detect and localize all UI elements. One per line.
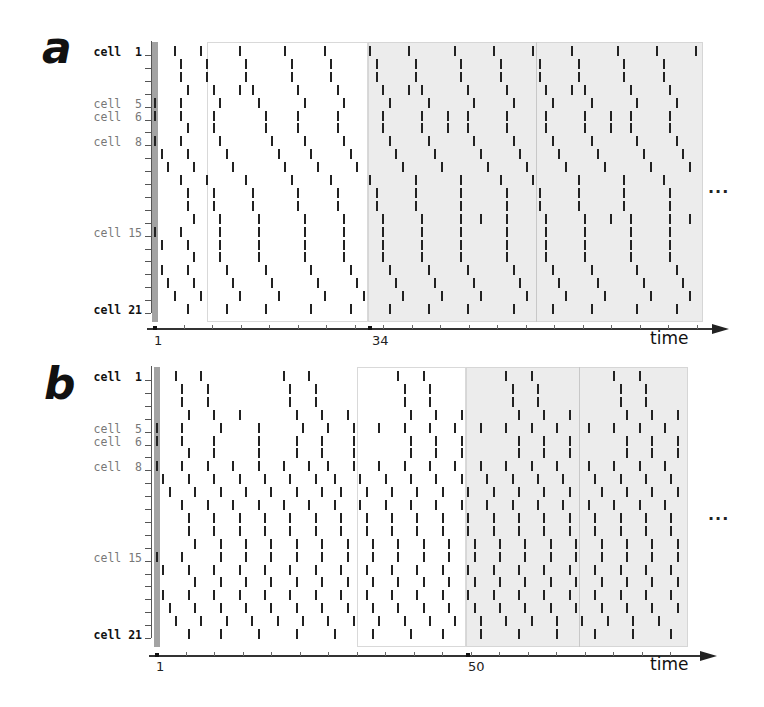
spike [296,629,298,639]
spike [188,410,190,420]
spike [531,461,533,471]
spike [518,565,520,575]
spike [474,552,476,562]
spike [353,616,355,626]
x-tick-label-mark-b: 50 [468,659,485,674]
initial-spike [156,552,158,562]
spike [289,526,291,536]
spike [480,616,482,626]
spike [213,410,215,420]
spike [181,436,183,446]
spike [385,500,387,510]
spike [194,603,196,613]
spike [550,552,552,562]
y-tick [145,612,151,613]
spike [289,384,291,394]
spike [537,397,539,407]
spike [207,384,209,394]
spike [378,616,380,626]
spike [620,397,622,407]
spike [296,410,298,420]
spike [220,629,222,639]
spike [359,474,361,484]
spike [423,539,425,549]
spike [518,513,520,523]
spike [575,552,577,562]
spike [270,603,272,613]
spike [543,590,545,600]
spike [677,448,679,458]
spike [639,423,641,433]
spike [626,577,628,587]
spike [340,487,342,497]
spike [245,603,247,613]
spike [626,410,628,420]
spike [162,565,164,575]
spike [670,590,672,600]
x-tick [556,652,557,656]
spike [416,513,418,523]
spike [340,565,342,575]
spike [308,371,310,381]
spike [283,461,285,471]
spike [239,410,241,420]
spike [518,526,520,536]
spike [601,539,603,549]
spike [404,423,406,433]
spike [270,539,272,549]
spike [289,565,291,575]
spike [321,487,323,497]
spike [550,603,552,613]
cell-label-15: cell 15 [52,552,142,564]
spike [620,526,622,536]
spike [632,616,634,626]
y-tick [145,470,151,471]
y-tick [145,548,151,549]
x-tick [528,652,529,656]
initial-stimulus-bar [154,367,160,647]
spike [385,474,387,484]
spike [454,616,456,626]
spike [315,526,317,536]
x-tick [357,652,358,656]
spike [645,565,647,575]
spike [347,577,349,587]
spike [562,474,564,484]
spike [639,371,641,381]
spike [645,384,647,394]
spike [467,565,469,575]
spike [429,384,431,394]
spike [486,474,488,484]
spike [239,474,241,484]
spike [620,384,622,394]
spike [404,397,406,407]
spike [232,500,234,510]
spike [645,526,647,536]
spike [200,616,202,626]
x-tick [186,652,187,656]
spike [410,474,412,484]
spike [181,384,183,394]
spike [169,487,171,497]
y-tick [145,393,151,394]
spike [315,565,317,575]
cell-label-21: cell 21 [52,629,142,641]
spike [543,513,545,523]
spike [651,539,653,549]
spike [315,590,317,600]
y-tick [145,522,151,523]
spike [575,603,577,613]
spike [601,603,603,613]
x-tick [471,652,472,656]
spike [327,461,329,471]
spike [569,565,571,575]
spike [296,577,298,587]
spike [308,461,310,471]
y-tick [145,535,151,536]
spike [397,371,399,381]
spike [670,526,672,536]
spike [315,384,317,394]
spike [493,590,495,600]
spike [410,448,412,458]
x-axis-label-b: time [650,654,688,674]
